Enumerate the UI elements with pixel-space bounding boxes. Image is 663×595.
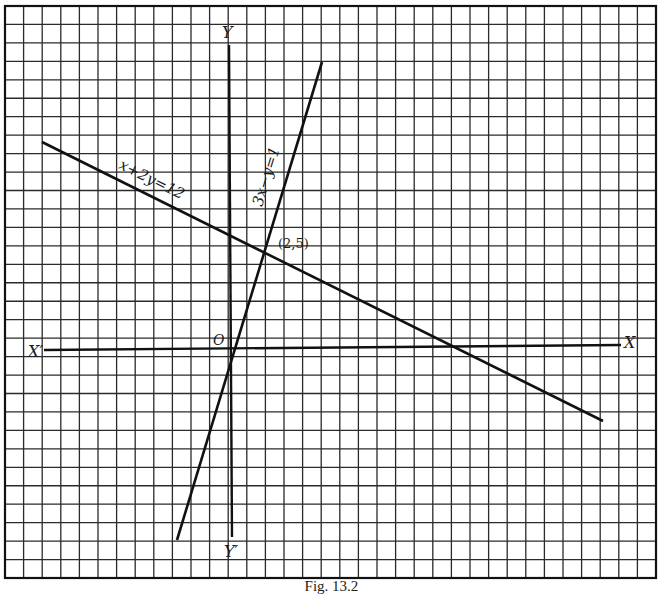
x-axis: [44, 345, 621, 350]
origin-label: O: [213, 332, 225, 348]
line-x-plus-2y-eq-12: [42, 142, 603, 421]
figure-caption: Fig. 13.2: [0, 578, 663, 595]
x-axis-label: X: [622, 333, 636, 352]
intersection-label: (2,5): [278, 236, 309, 251]
grid-lines: [5, 6, 656, 578]
x-neg-axis-label: X′: [26, 342, 43, 361]
grid-border: [5, 6, 656, 578]
y-axis: [229, 45, 232, 537]
y-neg-axis-label: Y′: [224, 542, 239, 561]
y-axis-label: Y: [222, 23, 234, 42]
